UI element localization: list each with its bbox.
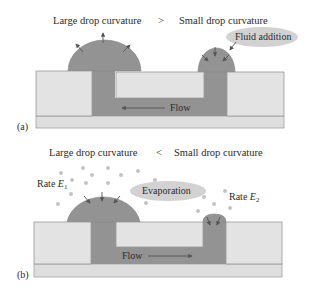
- panel-b-rate-e1-text: Rate: [37, 178, 58, 189]
- panel-b-rate-e1-subscript: 1: [64, 183, 68, 191]
- panel-b-rate-e2-subscript: 2: [256, 196, 260, 204]
- panel-b-title-left: Large drop curvature: [49, 147, 138, 158]
- panel-a-bubble-label: Fluid addition: [235, 31, 291, 42]
- panel-b-title-right: Small drop curvature: [174, 147, 263, 158]
- panel-b-substrate-left: [34, 222, 91, 264]
- panel-b-tag: (b): [17, 269, 29, 281]
- panel-b-substrate-middle: [116, 222, 203, 247]
- panel-b: Large drop curvature < Small drop curvat…: [17, 147, 282, 281]
- panel-b-base-layer: [34, 264, 282, 277]
- panel-b-rate-e2-text: Rate: [229, 191, 250, 202]
- panel-a-substrate-middle: [116, 72, 204, 98]
- panel-a-substrate-left: [36, 71, 92, 116]
- capillary-flow-diagram: Large drop curvature > Small drop curvat…: [0, 0, 314, 290]
- panel-b-small-drop: [203, 214, 226, 222]
- panel-b-rate-e2-label: Rate E2: [229, 191, 260, 204]
- panel-b-substrate-right: [226, 222, 282, 264]
- panel-a-substrate-right: [227, 72, 284, 116]
- panel-b-flow-label: Flow: [122, 250, 143, 261]
- panel-a-fluid-addition-arrow-icon: [230, 42, 236, 50]
- panel-a-small-drop: [198, 48, 235, 72]
- panel-a-title-left: Large drop curvature: [53, 15, 142, 26]
- panel-a-large-drop: [68, 40, 141, 71]
- panel-a-base-layer: [36, 116, 284, 128]
- panel-b-rate-e1-label: Rate E1: [37, 178, 68, 191]
- panel-a-tag: (a): [17, 121, 28, 133]
- panel-a: Large drop curvature > Small drop curvat…: [17, 15, 298, 133]
- panel-a-comparator: >: [158, 15, 164, 26]
- panel-b-bubble-label: Evaporation: [142, 185, 191, 196]
- panel-b-comparator: <: [156, 147, 162, 158]
- panel-a-title-right: Small drop curvature: [179, 15, 268, 26]
- panel-b-large-drop: [67, 197, 140, 222]
- panel-a-flow-label: Flow: [170, 102, 191, 113]
